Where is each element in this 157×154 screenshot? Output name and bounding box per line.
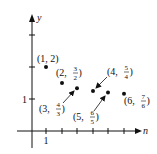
svg-text:(4,: (4, <box>107 66 118 78</box>
point-5 <box>106 91 110 95</box>
arrow-5 <box>94 96 105 111</box>
x-axis-arrow-icon <box>135 128 142 134</box>
label-p6: (6, 7 6 ) <box>124 93 150 110</box>
svg-text:): ) <box>147 95 150 107</box>
point-4 <box>91 89 95 93</box>
point-1 <box>44 65 48 69</box>
svg-text:5: 5 <box>125 64 129 72</box>
svg-text:7: 7 <box>142 93 146 101</box>
y-axis-label: y <box>36 12 42 23</box>
svg-text:2: 2 <box>74 74 78 82</box>
svg-text:): ) <box>130 66 133 78</box>
axes: 1 1 n y <box>17 12 148 148</box>
svg-text:5: 5 <box>91 118 95 126</box>
svg-text:3: 3 <box>57 110 61 118</box>
label-p2: (2, 3 2 ) <box>56 65 82 82</box>
svg-text:): ) <box>79 67 82 79</box>
svg-text:6: 6 <box>91 109 95 117</box>
svg-text:(5,: (5, <box>73 111 84 123</box>
x-tick-label: 1 <box>44 135 49 146</box>
label-p4: (4, 5 4 ) <box>107 64 133 81</box>
y-axis-arrow-icon <box>29 14 35 22</box>
x-axis-label: n <box>143 125 148 136</box>
svg-text:4: 4 <box>57 101 61 109</box>
svg-text:(6,: (6, <box>124 95 135 107</box>
point-3 <box>75 86 79 90</box>
svg-text:4: 4 <box>125 73 129 81</box>
label-p1: (1, 2) <box>37 53 59 65</box>
svg-text:3: 3 <box>74 65 78 73</box>
svg-text:): ) <box>96 111 99 123</box>
arrow-4 <box>96 77 107 88</box>
svg-text:6: 6 <box>142 102 146 110</box>
annotation-arrows <box>63 77 107 111</box>
y-tick-label: 1 <box>22 94 27 105</box>
svg-text:): ) <box>62 103 65 115</box>
label-p3: (3, 4 3 ) <box>39 101 65 118</box>
arrow-3 <box>63 91 74 103</box>
svg-text:(3,: (3, <box>39 103 50 115</box>
svg-text:(2,: (2, <box>56 67 67 79</box>
point-2 <box>60 81 64 85</box>
label-p5: (5, 6 5 ) <box>73 109 99 126</box>
sequence-plot: 1 1 n y (1, 2) (2, 3 2 ) (3, 4 3 <box>0 0 157 154</box>
